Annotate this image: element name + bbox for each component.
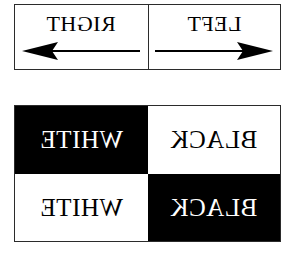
- arrow-cell-left: LEFT: [148, 5, 281, 69]
- contrast-label-bottom-left: WHITE: [40, 195, 123, 220]
- direction-label-right: RIGHT: [46, 13, 116, 35]
- arrow-right-icon: [155, 40, 273, 62]
- arrow-panel: RIGHT LEFT: [14, 4, 281, 70]
- arrow-cell-right: RIGHT: [15, 5, 148, 69]
- direction-label-left: LEFT: [187, 13, 242, 35]
- contrast-label-bottom-right: BLACK: [170, 195, 257, 220]
- arrow-left-icon: [22, 40, 140, 62]
- contrast-quadrant-top-right: BLACK: [148, 106, 281, 174]
- contrast-quadrant-bottom-left: WHITE: [15, 174, 148, 242]
- contrast-quadrant-bottom-right: BLACK: [148, 174, 281, 242]
- contrast-panel: WHITE BLACK WHITE BLACK: [14, 105, 281, 242]
- contrast-label-top-left: WHITE: [40, 127, 123, 152]
- contrast-quadrant-top-left: WHITE: [15, 106, 148, 174]
- contrast-label-top-right: BLACK: [170, 127, 257, 152]
